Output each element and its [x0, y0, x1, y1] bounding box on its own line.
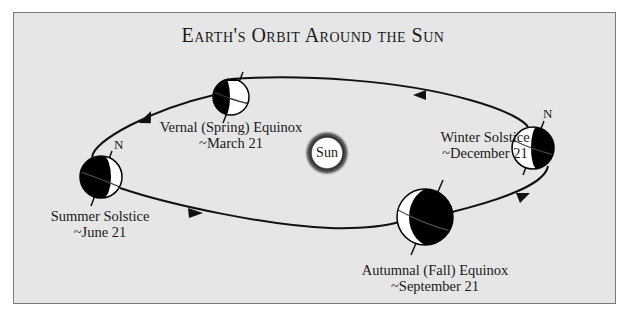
winter-name: Winter Solstice — [425, 129, 545, 145]
north-label-summer: N — [114, 137, 124, 152]
earth-vernal-icon — [210, 72, 254, 123]
label-summer-solstice: Summer Solstice ~June 21 — [40, 208, 160, 240]
label-vernal-equinox: Vernal (Spring) Equinox ~March 21 — [146, 119, 316, 151]
earth-autumnal-icon — [397, 180, 459, 255]
vernal-date: ~March 21 — [146, 135, 316, 151]
orbit-arrow-icon — [516, 193, 530, 203]
summer-name: Summer Solstice — [40, 208, 160, 224]
label-winter-solstice: Winter Solstice ~December 21 — [425, 129, 545, 161]
north-label-winter: N — [543, 106, 553, 121]
vernal-name: Vernal (Spring) Equinox — [146, 119, 316, 135]
winter-date: ~December 21 — [425, 145, 545, 161]
orbit-arrow-icon — [413, 90, 426, 100]
summer-date: ~June 21 — [40, 224, 160, 240]
earth-summer-icon — [78, 151, 122, 206]
autumnal-name: Autumnal (Fall) Equinox — [350, 262, 520, 278]
autumnal-date: ~September 21 — [350, 278, 520, 294]
label-autumnal-equinox: Autumnal (Fall) Equinox ~September 21 — [350, 262, 520, 294]
